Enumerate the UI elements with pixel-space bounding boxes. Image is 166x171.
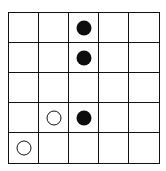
white-stone-icon — [46, 110, 61, 125]
board-cell-r0-c4[interactable] — [129, 13, 159, 43]
white-stone-icon — [16, 141, 31, 156]
board-cell-r1-c4[interactable] — [129, 43, 159, 73]
black-stone-icon — [76, 50, 91, 65]
board-cell-r1-c2[interactable] — [69, 43, 99, 73]
board-cell-r3-c2[interactable] — [69, 103, 99, 133]
board-cell-r4-c0[interactable] — [9, 133, 39, 163]
board-cell-r3-c4[interactable] — [129, 103, 159, 133]
board-cell-r1-c3[interactable] — [99, 43, 129, 73]
board-cell-r4-c1[interactable] — [39, 133, 69, 163]
black-stone-icon — [76, 20, 91, 35]
board-cell-r0-c0[interactable] — [9, 13, 39, 43]
board-cell-r4-c2[interactable] — [69, 133, 99, 163]
board-cell-r3-c3[interactable] — [99, 103, 129, 133]
board-cell-r2-c4[interactable] — [129, 73, 159, 103]
board-cell-r3-c0[interactable] — [9, 103, 39, 133]
board-cell-r0-c3[interactable] — [99, 13, 129, 43]
board-cell-r3-c1[interactable] — [39, 103, 69, 133]
board-cell-r0-c1[interactable] — [39, 13, 69, 43]
board-cell-r4-c4[interactable] — [129, 133, 159, 163]
board-cell-r2-c2[interactable] — [69, 73, 99, 103]
board-cell-r2-c0[interactable] — [9, 73, 39, 103]
board-cell-r4-c3[interactable] — [99, 133, 129, 163]
black-stone-icon — [76, 110, 91, 125]
board-cell-r2-c3[interactable] — [99, 73, 129, 103]
game-board-grid — [8, 12, 160, 164]
board-cell-r2-c1[interactable] — [39, 73, 69, 103]
board-cell-r0-c2[interactable] — [69, 13, 99, 43]
board-cell-r1-c1[interactable] — [39, 43, 69, 73]
board-cell-r1-c0[interactable] — [9, 43, 39, 73]
